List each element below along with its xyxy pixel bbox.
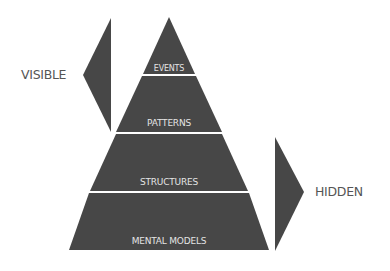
hidden-indicator: HIDDEN [275, 137, 363, 251]
level-label-patterns: PATTERNS [147, 118, 191, 128]
visible-label: VISIBLE [21, 67, 67, 82]
visible-indicator: VISIBLE [21, 18, 111, 132]
iceberg-pyramid-diagram: EVENTS PATTERNS STRUCTURES MENTAL MODELS… [0, 0, 390, 271]
hidden-label: HIDDEN [315, 184, 363, 199]
visible-arrow-icon [83, 18, 111, 132]
level-label-events: EVENTS [154, 64, 184, 73]
level-label-mental-models: MENTAL MODELS [132, 236, 207, 246]
hidden-arrow-icon [275, 137, 304, 251]
level-label-structures: STRUCTURES [140, 177, 199, 187]
